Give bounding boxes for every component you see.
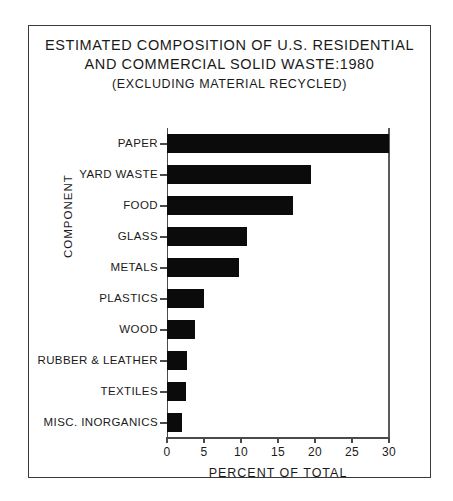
bar (167, 320, 195, 339)
x-tick-label: 20 (308, 445, 322, 459)
bar (167, 165, 311, 184)
bar-row: WOOD (167, 314, 389, 345)
category-label: GLASS (118, 221, 158, 252)
category-label: YARD WASTE (79, 159, 158, 190)
x-tick-label: 15 (271, 445, 285, 459)
bar (167, 413, 182, 432)
y-tick (160, 360, 167, 362)
bar (167, 134, 389, 153)
bar (167, 351, 187, 370)
category-label: RUBBER & LEATHER (37, 345, 158, 376)
x-tick (203, 437, 205, 443)
x-tick (277, 437, 279, 443)
x-tick-label: 30 (382, 445, 396, 459)
bar (167, 227, 247, 246)
x-axis-title: PERCENT OF TOTAL (167, 466, 389, 480)
x-tick-label: 0 (163, 445, 170, 459)
title-line-3: (EXCLUDING MATERIAL RECYCLED) (29, 74, 430, 94)
y-tick (160, 391, 167, 393)
bar-row: METALS (167, 252, 389, 283)
bar (167, 258, 239, 277)
bar-row: PLASTICS (167, 283, 389, 314)
title-line-1: ESTIMATED COMPOSITION OF U.S. RESIDENTIA… (29, 36, 430, 55)
category-label: FOOD (123, 190, 158, 221)
bar-row: YARD WASTE (167, 159, 389, 190)
x-tick-label: 5 (200, 445, 207, 459)
bar-row: PAPER (167, 128, 389, 159)
title-line-2: AND COMMERCIAL SOLID WASTE:1980 (29, 55, 430, 74)
y-tick (160, 267, 167, 269)
x-tick (314, 437, 316, 443)
bar (167, 382, 186, 401)
x-tick (240, 437, 242, 443)
bar (167, 289, 204, 308)
y-tick (160, 143, 167, 145)
bar-row: MISC. INORGANICS (167, 407, 389, 438)
x-tick (166, 437, 168, 443)
x-tick (388, 437, 390, 443)
x-tick (351, 437, 353, 443)
bar-row: FOOD (167, 190, 389, 221)
y-tick (160, 329, 167, 331)
y-tick (160, 422, 167, 424)
x-tick-label: 10 (234, 445, 248, 459)
chart-frame: ESTIMATED COMPOSITION OF U.S. RESIDENTIA… (28, 25, 431, 478)
bar-row: GLASS (167, 221, 389, 252)
category-label: METALS (110, 252, 158, 283)
category-label: WOOD (119, 314, 158, 345)
y-tick (160, 205, 167, 207)
y-axis-title: COMPONENT (62, 174, 74, 258)
category-label: PAPER (118, 128, 158, 159)
y-tick (160, 236, 167, 238)
category-label: PLASTICS (99, 283, 158, 314)
y-tick (160, 298, 167, 300)
category-label: MISC. INORGANICS (44, 407, 158, 438)
x-tick-label: 25 (345, 445, 359, 459)
bar-row: RUBBER & LEATHER (167, 345, 389, 376)
bar-row: TEXTILES (167, 376, 389, 407)
y-tick (160, 174, 167, 176)
category-label: TEXTILES (100, 376, 158, 407)
bar (167, 196, 293, 215)
plot-area: PAPER YARD WASTE FOOD GLASS METALS PLAST… (167, 128, 389, 437)
chart-title: ESTIMATED COMPOSITION OF U.S. RESIDENTIA… (29, 36, 430, 94)
